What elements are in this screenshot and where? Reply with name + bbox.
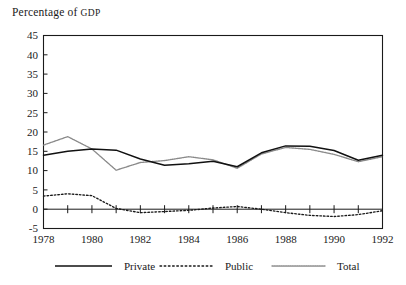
x-tick-label: 1992: [372, 233, 394, 245]
y-axis-tick-labels: -5051015202530354045: [27, 29, 39, 234]
y-tick-label: 40: [27, 49, 39, 61]
x-axis-tick-labels: 19781980198219841986198819901992: [33, 233, 394, 245]
x-tick-label: 1982: [129, 233, 151, 245]
x-tick-label: 1986: [226, 233, 249, 245]
y-tick-label: 45: [27, 29, 39, 41]
chart-figure: Percentage of GDP -5051015202530354045 1…: [0, 0, 406, 285]
x-tick-label: 1988: [275, 233, 298, 245]
legend-label-public: Public: [225, 260, 253, 272]
plot-frame: [44, 36, 383, 229]
chart-legend: PrivatePublicTotal: [55, 260, 359, 272]
y-tick-label: 10: [27, 164, 39, 176]
legend-label-total: Total: [337, 260, 359, 272]
series-line-private: [44, 146, 383, 167]
y-tick-label: 25: [27, 107, 39, 119]
x-tick-label: 1978: [33, 233, 56, 245]
y-tick-label: 15: [27, 145, 39, 157]
y-tick-label: 35: [27, 68, 39, 80]
legend-label-private: Private: [124, 260, 155, 272]
x-tick-label: 1980: [81, 233, 104, 245]
chart-canvas: -5051015202530354045 1978198019821984198…: [0, 0, 406, 285]
series-line-total: [44, 137, 383, 171]
y-axis-tick-marks: [44, 55, 48, 209]
x-tick-label: 1990: [323, 233, 346, 245]
series-lines: [44, 137, 383, 217]
x-tick-label: 1984: [178, 233, 201, 245]
y-tick-label: 0: [33, 203, 39, 215]
y-tick-label: 5: [33, 184, 39, 196]
y-tick-label: 30: [27, 87, 39, 99]
y-tick-label: 20: [27, 126, 39, 138]
